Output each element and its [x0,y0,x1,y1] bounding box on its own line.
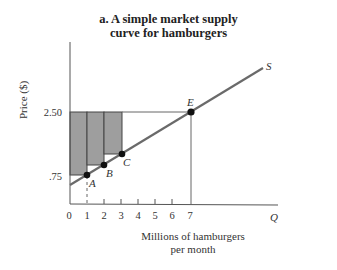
x-axis [70,204,278,205]
x-tick-6: 6 [169,210,174,221]
y-tick-.75: .75 [49,171,62,182]
y-axis-label: Price ($) [17,81,30,120]
x-axis-label-line-1: Millions of hamburgers [141,230,245,242]
bar-3 [104,112,122,154]
shaded-bars [70,112,122,175]
label-c: C [123,156,131,168]
supply-chart: A B C E S Q 2.50 .75 Price ($) 0 1 2 3 4… [0,0,337,270]
label-q: Q [270,211,278,223]
x-tick-2: 2 [101,210,106,221]
x-tick-1: 1 [84,210,89,221]
label-a: A [88,177,96,189]
label-b: B [106,167,113,179]
x-ticks [104,199,172,204]
bar-2 [87,112,104,165]
point-e [187,108,194,115]
x-tick-3: 3 [118,210,123,221]
label-e: E [186,96,194,108]
x-tick-4: 4 [135,210,141,221]
y-tick-2.50: 2.50 [44,107,62,118]
x-tick-0: 0 [66,210,71,221]
x-tick-7: 7 [187,210,192,221]
bar-1 [70,112,87,175]
x-tick-5: 5 [152,210,157,221]
x-axis-label-line-2: per month [171,243,216,255]
label-s: S [266,60,272,72]
